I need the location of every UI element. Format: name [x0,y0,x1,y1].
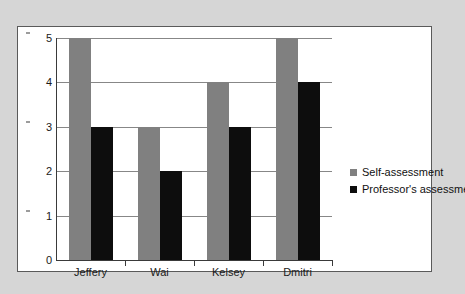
x-tick-label-kelsey: Kelsey [194,267,263,278]
y-tick-label-1: 1 [30,210,52,221]
y-tick-label-4: 4 [30,77,52,88]
bar-dmitri-self [276,38,298,260]
legend-swatch-icon-self-assessment [350,169,357,176]
legend-item-professor-assessment: Professor's assessment [350,181,465,198]
bar-chart-figure: 012345 JefferyWaiKelseyDmitri Self-asses… [17,26,432,272]
y-tick-label-3: 3 [30,121,52,132]
y-tick-mark-3 [26,210,30,211]
y-tick-label-2: 2 [30,166,52,177]
bars-layer [56,38,332,260]
legend-label-professor-assessment: Professor's assessment [362,184,465,195]
x-tick-label-dmitri: Dmitri [263,267,332,278]
y-tick-mark-4 [26,121,30,122]
x-tick-label-wai: Wai [125,267,194,278]
bar-kelsey-self [207,82,229,260]
y-tick-mark-5 [26,33,30,34]
y-tick-label-0: 0 [30,255,52,266]
x-tick-separator-end [332,261,333,266]
bar-jeffery-professor [91,127,113,260]
bar-jeffery-self [69,38,91,260]
legend-label-self-assessment: Self-assessment [362,167,443,178]
bar-kelsey-professor [229,127,251,260]
y-axis-tick-labels: 012345 [26,38,52,260]
bar-wai-professor [160,171,182,260]
x-tick-label-jeffery: Jeffery [56,267,125,278]
bar-wai-self [138,127,160,260]
y-tick-label-5: 5 [30,33,52,44]
legend-swatch-icon-professor-assessment [350,186,357,193]
x-axis-tick-labels: JefferyWaiKelseyDmitri [56,261,332,283]
bar-dmitri-professor [298,82,320,260]
chart-legend: Self-assessment Professor's assessment [350,164,465,198]
x-tick-separator-1 [125,261,126,266]
legend-item-self-assessment: Self-assessment [350,164,465,181]
x-tick-separator-3 [263,261,264,266]
x-tick-separator-2 [194,261,195,266]
